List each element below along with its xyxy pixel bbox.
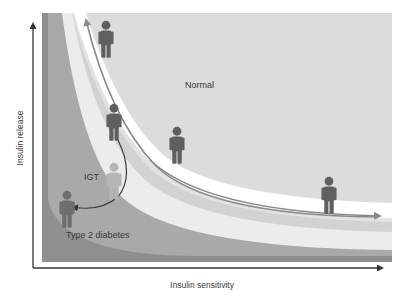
label-type2-diabetes: Type 2 diabetes: [66, 230, 130, 240]
y-axis-label: Insulin release: [15, 110, 25, 165]
x-axis-label: Insulin sensitivity: [170, 280, 235, 290]
label-igt: IGT: [84, 172, 100, 182]
insulin-hyperbola-diagram: Normal IGT Type 2 diabetes Insulin relea…: [0, 0, 414, 297]
label-normal: Normal: [185, 80, 214, 90]
